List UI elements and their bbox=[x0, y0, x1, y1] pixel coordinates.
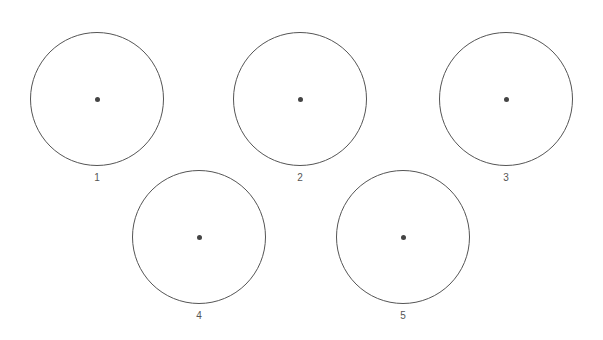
center-dot-5 bbox=[401, 235, 406, 240]
label-5: 5 bbox=[393, 310, 413, 321]
center-dot-2 bbox=[298, 97, 303, 102]
center-dot-4 bbox=[197, 235, 202, 240]
label-4: 4 bbox=[189, 310, 209, 321]
label-1: 1 bbox=[87, 172, 107, 183]
label-3: 3 bbox=[496, 172, 516, 183]
center-dot-1 bbox=[95, 97, 100, 102]
center-dot-3 bbox=[504, 97, 509, 102]
label-2: 2 bbox=[290, 172, 310, 183]
